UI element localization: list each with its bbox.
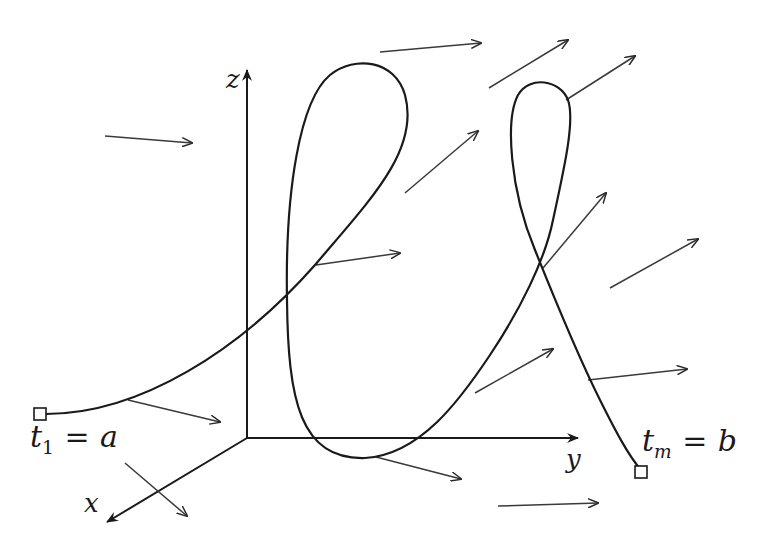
start-var: t — [30, 419, 42, 454]
field-arrow-icon — [376, 457, 461, 479]
field-arrow-icon — [489, 40, 568, 88]
axes — [107, 70, 578, 522]
end-var: t — [642, 423, 654, 458]
curve-path — [46, 63, 641, 470]
end-point-marker[interactable] — [635, 466, 647, 478]
field-arrow-icon — [566, 56, 635, 100]
field-arrow-icon — [543, 193, 606, 268]
field-arrow-icon — [588, 369, 687, 380]
diagram-canvas — [0, 0, 773, 553]
field-arrow-icon — [125, 463, 187, 516]
field-arrow-icon — [105, 136, 192, 143]
field-arrow-icon — [475, 349, 553, 393]
field-arrow-icon — [498, 503, 598, 506]
start-point-label: t1=a — [30, 422, 118, 457]
end-value: b — [718, 423, 737, 458]
x-axis — [107, 438, 247, 522]
field-arrow-icon — [380, 43, 481, 52]
end-equals: = — [682, 423, 707, 458]
vector-field-arrows — [105, 40, 698, 516]
z-axis-label: z — [226, 66, 240, 92]
y-axis-label: y — [566, 446, 581, 472]
end-subscript: m — [654, 441, 672, 462]
end-point-label: tm=b — [642, 426, 737, 461]
start-equals: = — [64, 419, 89, 454]
field-arrow-icon — [610, 239, 698, 288]
field-arrow-icon — [128, 400, 220, 422]
x-axis-label: x — [84, 490, 99, 516]
start-value: a — [100, 419, 118, 454]
field-arrow-icon — [316, 253, 400, 265]
start-subscript: 1 — [42, 437, 54, 458]
field-arrow-icon — [405, 131, 478, 193]
